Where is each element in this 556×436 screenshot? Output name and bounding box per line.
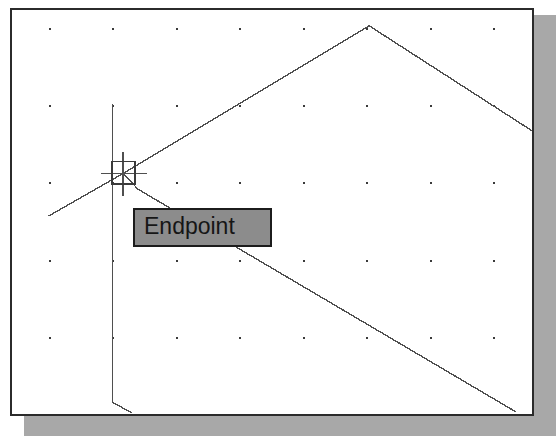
grid-dot (430, 337, 432, 339)
grid-dot (239, 337, 241, 339)
grid-dot (303, 260, 305, 262)
grid-dot (176, 28, 178, 30)
grid-dot (430, 260, 432, 262)
cad-screenshot: Endpoint (0, 0, 556, 436)
grid-dot (239, 28, 241, 30)
grid-dot (239, 182, 241, 184)
grid-dot (493, 337, 495, 339)
grid-dot (49, 337, 51, 339)
bottom-left-chamfer (112, 402, 132, 413)
grid-dot (493, 260, 495, 262)
grid-dot (49, 182, 51, 184)
grid-dot (176, 182, 178, 184)
roof-right-slope (369, 26, 532, 131)
grid-dot (493, 28, 495, 30)
grid-dot (176, 337, 178, 339)
grid-dot (303, 28, 305, 30)
grid-dot (366, 337, 368, 339)
grid-dot (176, 260, 178, 262)
grid-dot (430, 105, 432, 107)
grid-dot (239, 105, 241, 107)
grid-dot (430, 28, 432, 30)
drawing-canvas[interactable]: Endpoint (10, 8, 534, 416)
grid-dot (176, 105, 178, 107)
grid-dot (112, 28, 114, 30)
entity-line-layer (49, 26, 532, 413)
grid-dot (430, 182, 432, 184)
grid-dot (366, 105, 368, 107)
grid-dot (303, 182, 305, 184)
snap-tooltip: Endpoint (133, 208, 272, 247)
grid-dot (303, 337, 305, 339)
grid-dot (303, 105, 305, 107)
grid-dot (239, 260, 241, 262)
grid-dot (49, 28, 51, 30)
roof-left-slope (123, 26, 369, 174)
grid-dot (49, 260, 51, 262)
grid-dot (366, 182, 368, 184)
grid-dot (49, 105, 51, 107)
snap-tooltip-label: Endpoint (144, 215, 235, 238)
grid-dot (366, 260, 368, 262)
drawing-geometry (12, 10, 532, 414)
grid-dot (493, 182, 495, 184)
